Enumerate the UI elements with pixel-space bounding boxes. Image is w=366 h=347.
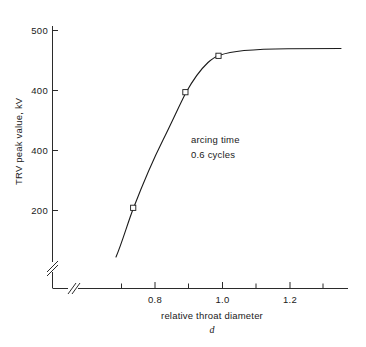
data-marker-0p99	[216, 53, 221, 58]
x-tick-label-0p8: 0.8	[148, 294, 162, 305]
x-axis-title: relative throat diameter	[161, 310, 263, 321]
y-tick-label-400-upper: 400	[31, 85, 48, 96]
chart-figure: 500 400 400 200 TRV peak value, kV 0.8 1…	[0, 0, 366, 347]
data-marker-0p735	[131, 205, 136, 210]
x-tick-label-1p2: 1.2	[283, 294, 297, 305]
y-axis-title: TRV peak value, kV	[13, 97, 24, 185]
x-tick-label-1p0: 1.0	[215, 294, 229, 305]
annotation-cycles: 0.6 cycles	[191, 149, 235, 160]
y-tick-label-200: 200	[31, 205, 48, 216]
chart-background	[0, 0, 366, 347]
annotation-arcing-time: arcing time	[191, 134, 240, 145]
trv-peak-value-line-chart: 500 400 400 200 TRV peak value, kV 0.8 1…	[0, 0, 366, 347]
y-tick-label-400-lower: 400	[31, 145, 48, 156]
y-tick-label-500: 500	[31, 25, 48, 36]
data-marker-0p89	[183, 90, 188, 95]
